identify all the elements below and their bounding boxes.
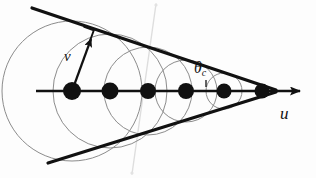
source-point: [140, 83, 156, 99]
source-point: [178, 83, 194, 99]
wave-speed-label-v: v: [64, 49, 71, 64]
mach-cone-figure: u v θc: [0, 0, 316, 178]
velocity-label-u: u: [280, 105, 289, 122]
theta-subscript: c: [202, 67, 206, 78]
cone-line-lower: [48, 92, 276, 163]
source-point: [217, 84, 232, 99]
figure-canvas: [0, 0, 316, 178]
theta-glyph: θ: [194, 59, 202, 76]
radius-vector-v: [72, 39, 91, 91]
cherenkov-angle-label: θc: [194, 60, 206, 76]
source-point: [102, 83, 119, 100]
source-point: [255, 84, 270, 99]
